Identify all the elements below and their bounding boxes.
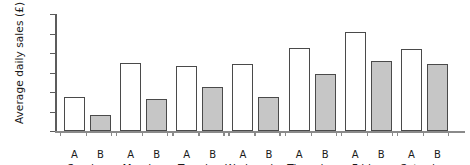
x-axis-tick bbox=[167, 132, 168, 136]
bar-monday-b bbox=[146, 99, 167, 131]
bar-monday-a bbox=[120, 63, 141, 131]
x-axis-sublabel-b: B bbox=[202, 149, 223, 160]
bar-tuesday-a bbox=[176, 66, 197, 131]
x-axis-tick bbox=[172, 132, 173, 136]
y-axis-tick bbox=[50, 34, 55, 35]
bar-saturday-b bbox=[427, 64, 448, 131]
x-axis-tick bbox=[111, 132, 112, 136]
y-axis-tick bbox=[50, 92, 55, 93]
x-axis-sublabel-b: B bbox=[146, 149, 167, 160]
x-axis-tick bbox=[392, 132, 393, 136]
bar-group bbox=[232, 14, 279, 131]
x-axis-tick bbox=[423, 132, 424, 136]
x-axis-tick bbox=[116, 132, 117, 136]
x-axis-sublabel-a: A bbox=[120, 149, 141, 160]
bar-wednesday-b bbox=[258, 97, 279, 131]
y-axis-tick bbox=[50, 73, 55, 74]
bar-thursday-b bbox=[315, 74, 336, 131]
x-axis-tick bbox=[60, 132, 61, 136]
x-axis-tick bbox=[397, 132, 398, 136]
bar-friday-a bbox=[345, 32, 366, 131]
bar-group bbox=[176, 14, 223, 131]
y-axis-title: Average daily sales (£) bbox=[13, 0, 25, 128]
bar-friday-b bbox=[371, 61, 392, 131]
bar-group bbox=[289, 14, 336, 131]
x-axis-sublabel-b: B bbox=[90, 149, 111, 160]
x-axis-tick bbox=[448, 132, 449, 136]
y-axis-tick bbox=[50, 14, 55, 15]
y-axis-tick bbox=[50, 53, 55, 54]
plot-area: 050100150200250300 ABSundayABMondayABTue… bbox=[55, 14, 465, 132]
x-axis-tick bbox=[285, 132, 286, 136]
y-axis-tick bbox=[50, 131, 55, 132]
x-axis-tick bbox=[228, 132, 229, 136]
bar-saturday-a bbox=[401, 49, 422, 131]
bar-wednesday-a bbox=[232, 64, 253, 131]
x-axis-tick bbox=[367, 132, 368, 136]
bar-group bbox=[120, 14, 167, 131]
x-axis-sublabel-b: B bbox=[427, 149, 448, 160]
x-axis-sublabel-a: A bbox=[401, 149, 422, 160]
x-axis-sublabel-a: A bbox=[232, 149, 253, 160]
x-axis-sublabel-a: A bbox=[176, 149, 197, 160]
x-axis-sublabel-a: A bbox=[64, 149, 85, 160]
x-axis-sublabel-a: A bbox=[289, 149, 310, 160]
bar-sunday-a bbox=[64, 97, 85, 131]
x-axis-tick bbox=[341, 132, 342, 136]
x-axis-tick bbox=[279, 132, 280, 136]
y-axis-tick bbox=[50, 112, 55, 113]
x-axis-tick bbox=[254, 132, 255, 136]
x-axis-tick bbox=[86, 132, 87, 136]
x-axis-tick bbox=[142, 132, 143, 136]
bar-group bbox=[64, 14, 111, 131]
x-axis-sublabel-b: B bbox=[258, 149, 279, 160]
x-axis-label-saturday: Saturday bbox=[364, 162, 470, 165]
x-axis-tick bbox=[198, 132, 199, 136]
x-axis-tick bbox=[336, 132, 337, 136]
y-axis-line bbox=[55, 14, 57, 132]
bar-chart: Average daily sales (£) 0501001502002503… bbox=[0, 0, 470, 165]
bar-group bbox=[401, 14, 448, 131]
bar-group bbox=[345, 14, 392, 131]
x-axis-tick bbox=[223, 132, 224, 136]
x-axis-tick bbox=[311, 132, 312, 136]
bar-thursday-a bbox=[289, 48, 310, 131]
x-axis-sublabel-b: B bbox=[315, 149, 336, 160]
bar-sunday-b bbox=[90, 115, 111, 131]
bar-tuesday-b bbox=[202, 87, 223, 131]
x-axis-sublabel-a: A bbox=[345, 149, 366, 160]
x-axis-sublabel-b: B bbox=[371, 149, 392, 160]
